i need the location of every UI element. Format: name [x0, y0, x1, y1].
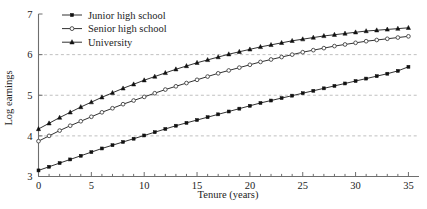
marker-filled-square [238, 107, 241, 110]
y-tick-label-7: 7 [27, 9, 32, 20]
series-markers [37, 34, 411, 143]
marker-open-circle [185, 81, 189, 85]
marker-open-circle [70, 27, 74, 31]
legend-label: University [88, 37, 133, 48]
y-tick-label-4: 4 [27, 131, 33, 142]
marker-filled-square [217, 113, 220, 116]
marker-open-circle [58, 129, 62, 133]
marker-filled-square [333, 84, 336, 87]
series-markers [37, 65, 410, 172]
x-tick-label-30: 30 [350, 180, 361, 191]
marker-open-circle [37, 139, 41, 143]
marker-filled-square [407, 65, 410, 68]
marker-filled-square [227, 110, 230, 113]
marker-open-circle [343, 43, 347, 47]
marker-open-circle [68, 124, 72, 128]
marker-filled-square [79, 154, 82, 157]
y-tick-label-6: 6 [27, 49, 32, 60]
x-axis-title: Tenure (years) [198, 189, 259, 201]
marker-open-circle [396, 36, 400, 40]
marker-filled-square [365, 77, 368, 80]
y-tick-label-5: 5 [27, 90, 32, 101]
marker-filled-square [58, 162, 61, 165]
legend-item-1[interactable]: Senior high school [62, 23, 167, 34]
marker-filled-square [70, 13, 73, 16]
marker-open-circle [142, 95, 146, 99]
marker-filled-square [206, 116, 209, 119]
marker-filled-square [69, 158, 72, 161]
marker-open-circle [290, 53, 294, 57]
marker-open-circle [237, 66, 241, 70]
marker-open-circle [269, 58, 273, 62]
y-tick-label-3: 3 [27, 171, 32, 182]
x-tick-label-10: 10 [139, 180, 150, 191]
marker-filled-square [301, 92, 304, 95]
marker-filled-square [153, 131, 156, 134]
marker-open-circle [301, 50, 305, 54]
marker-open-circle [322, 46, 326, 50]
marker-open-circle [375, 38, 379, 42]
y-axis: 34567 [27, 9, 42, 183]
marker-open-circle [195, 78, 199, 82]
chart-container: 34567 05101520253035 Tenure (years) Log … [0, 0, 427, 209]
marker-open-circle [280, 55, 284, 59]
series-1 [37, 34, 411, 143]
log-earnings-tenure-line-chart: 34567 05101520253035 Tenure (years) Log … [0, 0, 427, 209]
y-axis-title: Log earnings [3, 70, 14, 125]
marker-filled-square [312, 89, 315, 92]
marker-open-circle [354, 41, 358, 45]
x-tick-label-0: 0 [36, 180, 41, 191]
marker-open-circle [227, 69, 231, 73]
x-axis: 05101520253035 [36, 172, 419, 191]
marker-filled-square [396, 69, 399, 72]
marker-open-circle [248, 63, 252, 67]
marker-filled-square [143, 134, 146, 137]
marker-filled-square [354, 80, 357, 83]
marker-open-circle [163, 88, 167, 92]
marker-filled-square [90, 151, 93, 154]
marker-open-circle [90, 115, 94, 119]
marker-filled-square [100, 147, 103, 150]
marker-filled-square [185, 121, 188, 124]
legend-item-0[interactable]: Junior high school [62, 10, 166, 21]
marker-open-circle [132, 99, 136, 103]
marker-filled-square [291, 94, 294, 97]
legend-label: Junior high school [88, 10, 166, 21]
marker-open-circle [153, 91, 157, 95]
marker-filled-square [248, 104, 251, 107]
marker-open-circle [79, 119, 83, 123]
marker-filled-square [111, 144, 114, 147]
marker-open-circle [216, 71, 220, 75]
marker-open-circle [259, 60, 263, 64]
x-tick-label-5: 5 [89, 180, 94, 191]
marker-open-circle [364, 39, 368, 43]
marker-filled-square [196, 119, 199, 122]
marker-filled-square [375, 75, 378, 78]
marker-filled-square [122, 140, 125, 143]
legend-label: Senior high school [88, 23, 167, 34]
marker-open-circle [311, 48, 315, 52]
marker-filled-square [48, 165, 51, 168]
marker-open-circle [407, 34, 411, 38]
marker-open-circle [385, 37, 389, 41]
marker-filled-square [37, 169, 40, 172]
marker-open-circle [121, 102, 125, 106]
marker-open-circle [111, 106, 115, 110]
marker-filled-square [386, 72, 389, 75]
series-0 [37, 65, 410, 172]
series-line [39, 67, 409, 171]
marker-open-circle [206, 75, 210, 79]
x-axis-major-ticks [39, 172, 409, 177]
marker-filled-square [259, 101, 262, 104]
y-axis-ticks [39, 14, 43, 177]
marker-open-circle [47, 134, 51, 138]
marker-open-circle [174, 84, 178, 88]
legend-item-2[interactable]: University [62, 37, 133, 48]
y-axis-tick-labels: 34567 [27, 9, 33, 183]
marker-filled-triangle [406, 25, 410, 29]
series-line [39, 36, 409, 141]
marker-open-circle [100, 110, 104, 114]
chart-legend: Junior high schoolSenior high schoolUniv… [62, 10, 167, 48]
marker-filled-square [174, 124, 177, 127]
gridlines [39, 55, 420, 136]
